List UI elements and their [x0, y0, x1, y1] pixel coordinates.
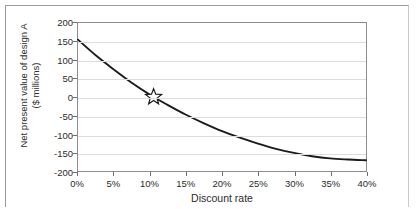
y-axis-tick-label: 100	[40, 54, 73, 65]
y-axis-tick-mark	[73, 78, 77, 79]
x-axis-tick-mark	[331, 172, 332, 176]
y-axis-title: Net present value of design A ($ million…	[18, 1, 41, 171]
x-axis-tick-label: 25%	[249, 178, 268, 189]
x-axis-tick-mark	[77, 172, 78, 176]
gridline	[78, 79, 366, 80]
y-axis-title-line-1: Net present value of design A	[18, 1, 30, 171]
y-axis-tick-mark	[73, 116, 77, 117]
y-axis-tick-label: 150	[40, 35, 73, 46]
y-axis-tick-label: -100	[40, 129, 73, 140]
gridline	[78, 154, 366, 155]
chart-figure: Net present value of design A ($ million…	[0, 0, 416, 209]
x-axis-tick-label: 15%	[176, 178, 195, 189]
y-axis-tick-label: -200	[40, 167, 73, 178]
x-axis-tick-label: 0%	[70, 178, 84, 189]
y-axis-tick-mark	[73, 60, 77, 61]
gridline	[78, 61, 366, 62]
npv-curve-line	[78, 40, 366, 161]
plot-area	[77, 22, 367, 172]
irr-star-marker	[146, 89, 162, 104]
y-axis-tick-label: 200	[40, 17, 73, 28]
x-axis-tick-label: 40%	[357, 178, 376, 189]
y-axis-tick-label: 50	[40, 73, 73, 84]
npv-curve-svg	[78, 23, 366, 171]
x-axis-tick-mark	[295, 172, 296, 176]
x-axis-tick-mark	[186, 172, 187, 176]
x-axis-tick-mark	[222, 172, 223, 176]
y-axis-title-line-2: ($ millions)	[29, 1, 41, 171]
y-axis-tick-mark	[73, 135, 77, 136]
gridline	[78, 42, 366, 43]
x-axis-tick-label: 5%	[106, 178, 120, 189]
x-axis-tick-mark	[150, 172, 151, 176]
x-axis-tick-label: 10%	[140, 178, 159, 189]
x-axis-tick-label: 35%	[321, 178, 340, 189]
gridline	[78, 117, 366, 118]
gridline	[78, 136, 366, 137]
y-axis-tick-mark	[73, 41, 77, 42]
x-axis-title: Discount rate	[77, 192, 367, 204]
y-axis-tick-labels: 200150100500-50-100-150-200	[40, 22, 73, 172]
x-axis-tick-mark	[258, 172, 259, 176]
x-axis-tick-label: 20%	[212, 178, 231, 189]
y-axis-tick-label: 0	[40, 92, 73, 103]
y-axis-tick-label: -150	[40, 148, 73, 159]
gridline	[78, 98, 366, 99]
y-axis-tick-mark	[73, 97, 77, 98]
y-axis-tick-label: -50	[40, 110, 73, 121]
plot-inner	[78, 23, 366, 171]
x-axis-tick-label: 30%	[285, 178, 304, 189]
x-axis-tick-mark	[113, 172, 114, 176]
y-axis-tick-mark	[73, 153, 77, 154]
y-axis-tick-mark	[73, 22, 77, 23]
x-axis-tick-mark	[367, 172, 368, 176]
